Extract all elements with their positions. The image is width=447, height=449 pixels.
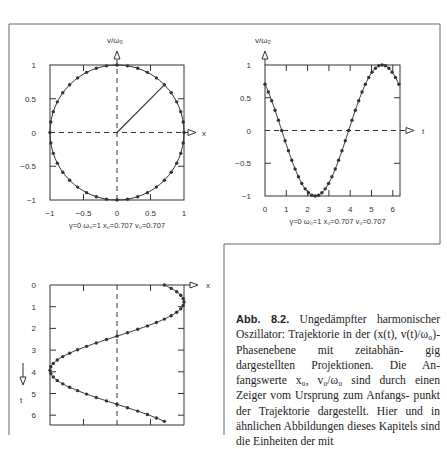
velocity-time-plot: tv/ω₀10.50−0.5−10123456γ=0 ω₀=1 x₀=0.707… <box>235 36 425 226</box>
svg-text:−1: −1 <box>45 209 55 218</box>
figure-label: Abb. 8.2. <box>236 313 289 325</box>
x-axis-label: x <box>202 129 206 138</box>
svg-text:4: 4 <box>32 368 37 377</box>
svg-text:−0.5: −0.5 <box>76 209 92 218</box>
x-axis-label: x <box>206 281 210 290</box>
position-time-plot: x0123456t <box>20 281 210 425</box>
svg-text:5: 5 <box>32 390 37 399</box>
t-axis-label: t <box>20 396 23 405</box>
t-axis-label: t <box>422 127 425 136</box>
params-label: γ=0 ω₀=1 x₀=0.707 v₀=0.707 <box>69 221 165 230</box>
svg-text:0: 0 <box>32 129 37 138</box>
svg-text:1: 1 <box>32 303 37 312</box>
params-label: γ=0 ω₀=1 x₀=0.707 v₀=0.707 <box>289 217 385 226</box>
svg-text:0.5: 0.5 <box>145 209 157 218</box>
svg-text:1: 1 <box>284 205 289 214</box>
svg-text:0.5: 0.5 <box>240 94 252 103</box>
svg-text:1: 1 <box>247 61 252 70</box>
v-axis-label: v/ω₀ <box>107 36 123 45</box>
svg-text:3: 3 <box>32 346 37 355</box>
svg-text:5: 5 <box>369 205 374 214</box>
v-axis-label: v/ω₀ <box>255 36 271 45</box>
svg-text:1: 1 <box>182 209 187 218</box>
svg-text:0: 0 <box>32 281 37 290</box>
phase-plane-plot: xv/ω₀10.50−0.5−1−1−0.500.51γ=0 ω₀=1 x₀=0… <box>20 36 206 230</box>
svg-text:6: 6 <box>32 411 37 420</box>
svg-text:4: 4 <box>348 205 353 214</box>
svg-text:0: 0 <box>263 205 268 214</box>
svg-text:−1: −1 <box>27 196 37 205</box>
svg-text:−1: −1 <box>242 192 252 201</box>
svg-text:2: 2 <box>32 324 37 333</box>
svg-text:2: 2 <box>305 205 310 214</box>
figure-caption: Abb. 8.2. Ungedämpfter harmonischer Oszi… <box>236 312 440 449</box>
svg-text:−0.5: −0.5 <box>20 162 36 171</box>
svg-text:0: 0 <box>247 127 252 136</box>
svg-text:0.5: 0.5 <box>25 95 37 104</box>
svg-text:6: 6 <box>391 205 396 214</box>
svg-text:0: 0 <box>115 209 120 218</box>
svg-text:−0.5: −0.5 <box>235 159 251 168</box>
caption-text: Ungedämpfter harmonischer Oszillator: Tr… <box>236 313 440 448</box>
svg-text:1: 1 <box>32 61 37 70</box>
svg-text:3: 3 <box>327 205 332 214</box>
